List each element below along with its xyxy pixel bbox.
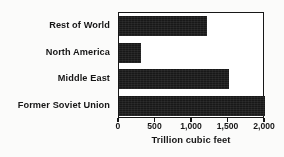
category-label-former-soviet-union: Former Soviet Union bbox=[0, 100, 110, 110]
plot-area bbox=[118, 12, 264, 118]
x-tick-label-2: 1,000 bbox=[180, 121, 202, 131]
category-label-middle-east: Middle East bbox=[0, 73, 110, 83]
x-tick-label-1: 500 bbox=[147, 121, 161, 131]
x-tick-label-0: 0 bbox=[116, 121, 121, 131]
category-axis-labels: Rest of World North America Middle East … bbox=[0, 12, 114, 118]
bar-series bbox=[119, 13, 263, 117]
bar-former-soviet-union bbox=[119, 96, 265, 116]
x-tick-label-4: 2,000 bbox=[253, 121, 275, 131]
bar-rest-of-world bbox=[119, 16, 207, 36]
x-tick-label-3: 1,500 bbox=[217, 121, 239, 131]
bar-north-america bbox=[119, 43, 141, 63]
x-axis-title: Trillion cubic feet bbox=[118, 134, 264, 145]
category-label-north-america: North America bbox=[0, 47, 110, 57]
bar-chart-figure: Rest of World North America Middle East … bbox=[0, 0, 284, 157]
category-label-rest-of-world: Rest of World bbox=[0, 20, 110, 30]
bar-middle-east bbox=[119, 69, 229, 89]
